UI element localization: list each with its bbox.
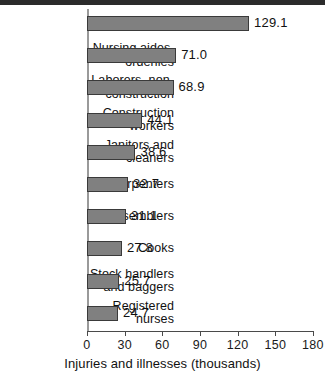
x-tick-label: 30 <box>117 338 132 352</box>
bar-value-label: 129.1 <box>254 15 288 31</box>
bar <box>87 241 122 256</box>
x-tick-mark <box>200 331 201 336</box>
x-tick-label: 0 <box>83 338 90 352</box>
x-tick-mark <box>238 331 239 336</box>
x-tick-mark <box>162 331 163 336</box>
bar-chart: 0306090120150180 Truck drivers129.1Nursi… <box>0 5 325 380</box>
x-tick-mark <box>87 331 88 336</box>
bar <box>87 48 176 63</box>
bar-row: Registerednurses24.7 <box>87 306 325 321</box>
x-tick-label: 180 <box>302 338 324 352</box>
plot-area: 0306090120150180 Truck drivers129.1Nursi… <box>87 9 313 331</box>
bar-value-label: 24.7 <box>123 305 149 321</box>
bar-row: Stock handlersand baggers25.7 <box>87 274 325 289</box>
bar-value-label: 68.9 <box>179 79 205 95</box>
bar <box>87 16 249 31</box>
bar-row: Assemblers31.1 <box>87 209 325 224</box>
bar <box>87 145 135 160</box>
x-tick-mark <box>275 331 276 336</box>
bar-value-label: 38.6 <box>140 144 166 160</box>
bar-row: Truck drivers129.1 <box>87 16 325 31</box>
bar <box>87 80 174 95</box>
bar <box>87 177 128 192</box>
bar-value-label: 31.1 <box>131 208 157 224</box>
bar-row: Laborers, non-construction68.9 <box>87 80 325 95</box>
bar-row: Carpenters32.7 <box>87 177 325 192</box>
bar-row: Cooks27.8 <box>87 241 325 256</box>
x-tick-label: 150 <box>264 338 286 352</box>
bar-value-label: 32.7 <box>133 176 159 192</box>
bar-row: Nursing aides,orderlies71.0 <box>87 48 325 63</box>
bar <box>87 274 119 289</box>
bar-row: Janitors andcleaners38.6 <box>87 145 325 160</box>
x-axis-title: Injuries and illnesses (thousands) <box>0 356 325 371</box>
bar-row: Constructionworkers44.1 <box>87 113 325 128</box>
x-tick-mark <box>125 331 126 336</box>
x-tick-label: 60 <box>155 338 170 352</box>
bar <box>87 113 142 128</box>
bar <box>87 306 118 321</box>
bar-value-label: 27.8 <box>127 240 153 256</box>
bar-value-label: 71.0 <box>181 47 207 63</box>
x-tick-mark <box>313 331 314 336</box>
x-tick-label: 120 <box>227 338 249 352</box>
bar-value-label: 44.1 <box>147 112 173 128</box>
x-tick-label: 90 <box>193 338 208 352</box>
bar-value-label: 25.7 <box>124 273 150 289</box>
bar <box>87 209 126 224</box>
